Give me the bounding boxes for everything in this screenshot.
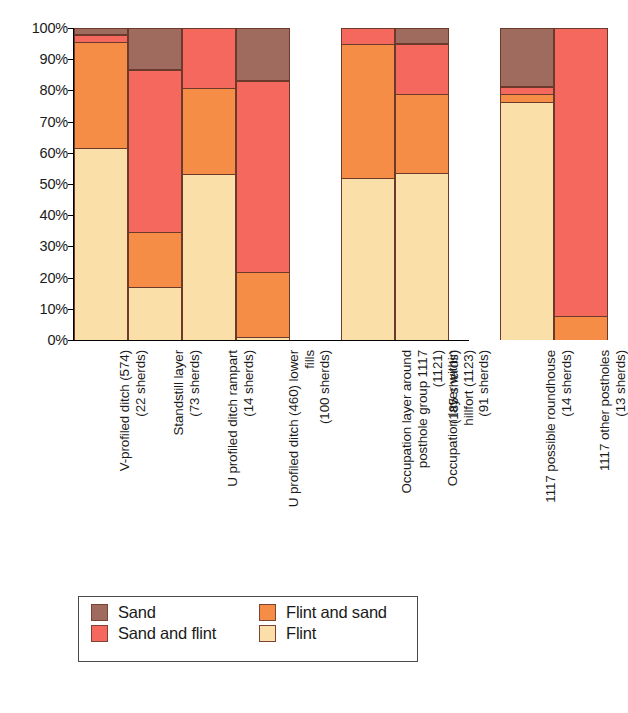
bar-segment xyxy=(500,87,554,94)
x-axis-label: U profiled ditch (460) lowerfills(100 sh… xyxy=(286,350,333,507)
x-axis-label-line: hillfort (1123) xyxy=(461,350,477,486)
x-axis-label-line: U profiled ditch (460) lower xyxy=(286,350,302,507)
x-axis-label: Occupation layer withinhillfort (1123)(9… xyxy=(445,350,492,486)
bar-segment xyxy=(341,28,395,44)
bar-segment xyxy=(236,337,290,340)
bar-segment xyxy=(128,70,182,232)
figure-caption xyxy=(78,693,508,709)
legend-item: Flint xyxy=(259,625,407,642)
bar-segment xyxy=(395,28,449,44)
bar-column xyxy=(500,28,554,340)
bar-column xyxy=(554,28,608,340)
bar-segment xyxy=(341,44,395,178)
legend-swatch xyxy=(259,604,276,621)
bars-layer xyxy=(0,0,616,360)
x-axis-label: U profiled ditch rampart(14 sherds) xyxy=(225,350,256,487)
bar-stack xyxy=(236,28,290,340)
bar-stack xyxy=(500,28,554,340)
x-axis-label-line: posthole group 1117 xyxy=(415,350,431,494)
x-axis-label-line: U profiled ditch rampart xyxy=(225,350,241,487)
bar-segment xyxy=(395,173,449,340)
bar-column xyxy=(236,28,290,340)
bar-segment xyxy=(74,42,128,148)
x-axis-label-line: Occupation layer within xyxy=(445,350,461,486)
x-axis-label-line: (14 sherds) xyxy=(240,350,256,487)
bar-segment xyxy=(182,174,236,340)
bar-stack xyxy=(341,28,395,340)
x-axis-label-line: (22 sherds) xyxy=(132,350,148,471)
bar-segment xyxy=(128,232,182,287)
plot-area: 0%10%20%30%40%50%60%70%80%90%100% xyxy=(0,0,616,360)
chart-legend: SandFlint and sandSand and flintFlint xyxy=(78,596,418,662)
x-axis-label-line: (73 sherds) xyxy=(186,350,202,435)
bar-column xyxy=(341,28,395,340)
bar-segment xyxy=(500,102,554,340)
x-axis-label-line: 1117 other postholes xyxy=(597,350,613,471)
x-axis-category-labels: V-profiled ditch (574)(22 sherds)Standst… xyxy=(0,344,616,584)
legend-item: Flint and sand xyxy=(259,604,407,621)
bar-segment xyxy=(395,44,449,94)
x-axis-label-line: V-profiled ditch (574) xyxy=(117,350,133,471)
legend-swatch xyxy=(259,625,276,642)
legend-label: Flint and sand xyxy=(286,604,387,621)
x-axis-label: V-profiled ditch (574)(22 sherds) xyxy=(117,350,148,471)
legend-item: Sand and flint xyxy=(91,625,259,642)
bar-segment xyxy=(554,316,608,340)
bar-segment xyxy=(182,88,236,174)
x-axis-label: 1117 possible roundhouse(14 sherds) xyxy=(543,350,574,503)
x-axis-label-line: (91 sherds) xyxy=(476,350,492,486)
x-axis-label-line: 1117 possible roundhouse xyxy=(543,350,559,503)
bar-segment xyxy=(236,28,290,81)
bar-segment xyxy=(74,148,128,340)
x-axis-label-line: fills xyxy=(302,350,318,507)
bar-segment xyxy=(236,272,290,337)
bar-segment xyxy=(500,28,554,87)
x-axis-label-line: (14 sherds) xyxy=(558,350,574,503)
bar-column xyxy=(74,28,128,340)
bar-segment xyxy=(554,28,608,316)
bar-segment xyxy=(128,28,182,70)
legend-item: Sand xyxy=(91,604,259,621)
legend-label: Flint xyxy=(286,625,316,642)
bar-stack xyxy=(128,28,182,340)
x-axis-label-line: (1121) xyxy=(430,350,446,494)
x-axis-label-line: Standstill layer xyxy=(171,350,187,435)
bar-segment xyxy=(74,35,128,42)
bar-segment xyxy=(341,178,395,340)
x-axis-label-line: Occupation layer around xyxy=(399,350,415,494)
bar-stack xyxy=(554,28,608,340)
x-axis-label: Standstill layer(73 sherds) xyxy=(171,350,202,435)
legend-swatch xyxy=(91,625,108,642)
legend-label: Sand and flint xyxy=(118,625,216,642)
x-axis-label-line: (13 sherds) xyxy=(612,350,628,471)
legend-swatch xyxy=(91,604,108,621)
bar-segment xyxy=(128,287,182,340)
legend-label: Sand xyxy=(118,604,156,621)
bar-segment xyxy=(236,81,290,272)
bar-segment xyxy=(500,94,554,102)
bar-segment xyxy=(395,94,449,173)
bar-stack xyxy=(395,28,449,340)
bar-segment xyxy=(74,28,128,35)
bar-stack xyxy=(74,28,128,340)
bar-column xyxy=(128,28,182,340)
bar-stack xyxy=(182,28,236,340)
x-axis-label: 1117 other postholes(13 sherds) xyxy=(597,350,628,471)
x-axis-label-line: (100 sherds) xyxy=(317,350,333,507)
bar-column xyxy=(182,28,236,340)
bar-column xyxy=(395,28,449,340)
bar-segment xyxy=(182,28,236,88)
